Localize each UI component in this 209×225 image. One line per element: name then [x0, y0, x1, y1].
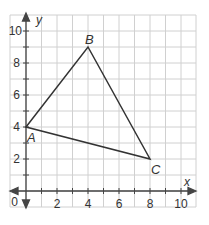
- y-axis-label: y: [35, 13, 43, 27]
- x-axis-arrow-left-icon: [10, 188, 18, 195]
- y-tick-label: 10: [9, 24, 23, 38]
- y-axis-arrow-up-icon: [23, 13, 30, 21]
- x-tick-label: 10: [174, 197, 188, 211]
- x-tick-label: 8: [147, 197, 154, 211]
- x-axis-label: x: [183, 175, 191, 189]
- y-tick-label: 4: [13, 120, 20, 134]
- origin-label: 0: [11, 195, 18, 209]
- vertex-label-b: B: [85, 32, 94, 47]
- vertex-label-a: A: [26, 130, 36, 145]
- x-tick-label: 4: [85, 197, 92, 211]
- x-tick-label: 6: [116, 197, 123, 211]
- coordinate-plane: 2 4 6 8 10 2 4 6 8 10 0 y x A B C: [0, 0, 209, 225]
- y-tick-label: 8: [13, 56, 20, 70]
- y-tick-label: 2: [13, 152, 20, 166]
- x-tick-label: 2: [54, 197, 61, 211]
- y-tick-label: 6: [13, 88, 20, 102]
- vertex-label-c: C: [151, 162, 161, 177]
